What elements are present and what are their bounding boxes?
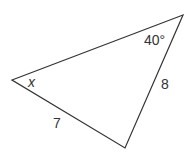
angle-x-label: x [27, 74, 36, 90]
triangle-diagram: x 40° 8 7 [0, 0, 190, 153]
side-7-label: 7 [53, 115, 61, 131]
side-8-label: 8 [161, 76, 169, 92]
angle-40-label: 40° [144, 32, 165, 48]
